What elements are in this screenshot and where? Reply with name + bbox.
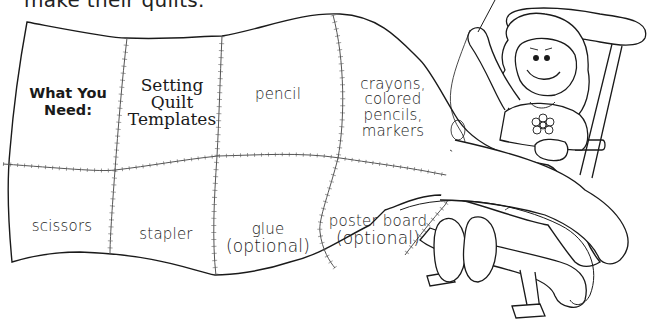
quilt-cell-setting-quilt-templates: Setting Quilt Templates	[126, 52, 218, 152]
quilt-cell-crayons: crayons, colored pencils, markers	[348, 58, 438, 158]
heading-line-1: What You	[29, 85, 107, 102]
cell-line: stapler	[139, 227, 192, 243]
cell-line: (optional)	[226, 238, 310, 256]
cell-line: Setting	[128, 77, 216, 94]
heading-line-2: Need:	[29, 102, 107, 119]
quilt-cell-pencil: pencil	[228, 70, 328, 120]
cell-line: markers	[360, 124, 425, 140]
what-you-need-heading: What You Need:	[22, 72, 114, 132]
cell-line: Quilt	[128, 94, 216, 111]
quilt-cell-poster-board: poster board (optional)	[320, 206, 436, 256]
cell-line: scissors	[32, 219, 93, 235]
shoe-icon	[434, 219, 466, 282]
cell-line: Templates	[128, 111, 216, 128]
quilt-cell-stapler: stapler	[118, 220, 214, 250]
quilt-cell-glue: glue (optional)	[218, 214, 318, 264]
quilt-cell-scissors: scissors	[12, 212, 112, 242]
cell-line: pencil	[255, 87, 301, 103]
quilt-illustration	[0, 0, 651, 330]
cell-line: (optional)	[329, 230, 427, 248]
